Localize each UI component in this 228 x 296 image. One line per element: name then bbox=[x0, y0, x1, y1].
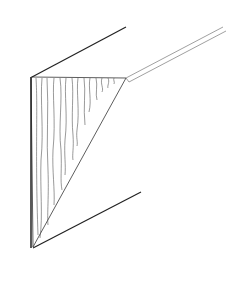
end-grain-face bbox=[31, 77, 126, 247]
thin-strip bbox=[126, 27, 226, 82]
corner-molding-drawing bbox=[0, 0, 228, 296]
top-edge bbox=[32, 27, 126, 77]
diagram-canvas: corner-molding-profile bbox=[0, 0, 228, 296]
